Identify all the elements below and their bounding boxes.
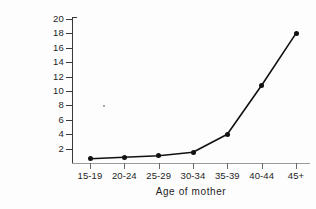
x-tick-45+ [296,163,297,169]
x-tick-35-39 [227,163,228,169]
y-tick-label: 20 [42,13,64,24]
y-tick-2 [66,149,73,150]
y-tick-label-wrap: 18 [40,27,64,39]
y-tick-20 [66,19,73,20]
y-tick-label: 10 [42,85,64,96]
x-tick-30-34 [193,163,194,169]
y-tick-14 [66,62,73,63]
y-tick-12 [66,77,73,78]
y-tick-label-wrap: 16 [40,42,64,54]
y-tick-18 [66,33,73,34]
chart-figure: 2468101214161820 15-1920-2425-2930-3435-… [0,0,316,209]
y-tick-label-wrap: 4 [40,128,64,140]
data-point-25-29 [156,153,161,158]
y-tick-label: 14 [42,56,64,67]
y-tick-label-wrap: 6 [40,114,64,126]
y-tick-label: 6 [42,114,64,125]
data-point-20-24 [122,155,127,160]
x-tick-25-29 [159,163,160,169]
x-axis-line [72,163,310,164]
y-tick-label: 18 [42,27,64,38]
y-tick-16 [66,48,73,49]
y-tick-label: 2 [42,143,64,154]
y-tick-10 [66,91,73,92]
data-point-35-39 [225,132,230,137]
y-tick-label: 16 [42,42,64,53]
y-tick-label-wrap: 10 [40,85,64,97]
x-tick-40-44 [262,163,263,169]
data-point-45+ [294,31,299,36]
data-point-40-44 [259,83,264,88]
data-point-15-19 [88,156,93,161]
y-tick-label: 8 [42,99,64,110]
x-axis-title: Age of mother [72,186,310,197]
y-tick-label: 4 [42,128,64,139]
y-tick-label-wrap: 14 [40,56,64,68]
y-tick-label-wrap: 8 [40,99,64,111]
x-tick-20-24 [124,163,125,169]
x-tick-15-19 [90,163,91,169]
y-tick-label-wrap: 2 [40,143,64,155]
y-tick-8 [66,105,73,106]
y-tick-label: 12 [42,71,64,82]
y-tick-label-wrap: 20 [40,13,64,25]
x-tick-label: 45+ [273,170,316,181]
y-tick-label-wrap: 12 [40,71,64,83]
y-tick-6 [66,120,73,121]
y-tick-4 [66,134,73,135]
y-axis-top-cap [72,17,77,18]
scan-speck [103,105,105,107]
data-point-30-34 [191,150,196,155]
